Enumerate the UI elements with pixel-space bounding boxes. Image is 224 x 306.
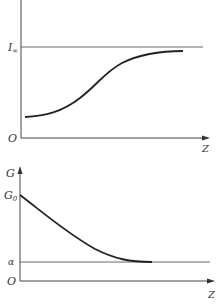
bottom-x-axis-label: Z bbox=[207, 289, 216, 300]
bottom-x-arrow-icon bbox=[207, 279, 215, 284]
i-curve bbox=[25, 51, 183, 117]
figure: I∞ O Z G G0 α O Z bbox=[0, 0, 224, 306]
i-inf-label: I∞ bbox=[7, 41, 18, 55]
top-x-axis-label: Z bbox=[201, 143, 210, 154]
top-x-arrow-icon bbox=[202, 136, 210, 141]
bottom-chart: G G0 α O Z bbox=[4, 166, 216, 300]
g0-label: G0 bbox=[4, 189, 18, 203]
alpha-label: α bbox=[8, 257, 14, 267]
bottom-origin-label: O bbox=[7, 275, 16, 288]
g-axis-label: G bbox=[6, 167, 15, 180]
top-chart: I∞ O Z bbox=[7, 0, 210, 154]
top-origin-label: O bbox=[8, 132, 17, 145]
bottom-y-arrow-icon bbox=[18, 166, 23, 174]
g-curve bbox=[20, 195, 152, 262]
